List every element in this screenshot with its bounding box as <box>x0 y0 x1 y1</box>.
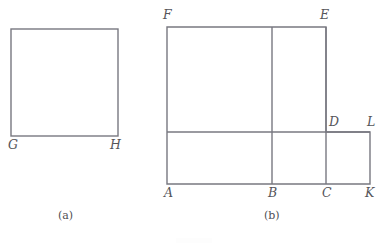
vertex-label-E: E <box>320 9 329 22</box>
vertex-label-A: A <box>164 187 173 200</box>
vertex-label-L: L <box>367 116 375 129</box>
vertex-label-K: K <box>365 187 374 200</box>
vertex-label-D: D <box>329 116 339 129</box>
vertex-label-F: F <box>163 9 172 22</box>
figure-caption-a: (a) <box>58 210 73 221</box>
vertex-label-G: G <box>8 139 18 152</box>
vertex-label-C: C <box>322 187 332 200</box>
vertex-label-H: H <box>110 139 121 152</box>
figure-caption-b: (b) <box>264 210 280 221</box>
vertex-label-B: B <box>268 187 277 200</box>
page-edge-artifact <box>176 238 212 243</box>
